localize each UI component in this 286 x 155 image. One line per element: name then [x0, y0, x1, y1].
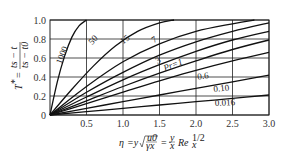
x-axis-eq1: =y — [127, 137, 139, 148]
x-tick-label: 2.5 — [226, 118, 239, 129]
x-axis-title: η =y u0 γx = y x Re x 1/2 — [119, 132, 205, 151]
x-tick-label: 0.5 — [80, 118, 93, 129]
x-tick-label: 2.0 — [190, 118, 203, 129]
x-axis-sqrt-den: γx — [146, 140, 155, 151]
x-tick-label: 1.5 — [153, 118, 166, 129]
y-axis-denominator: ts − t0 — [19, 42, 30, 68]
x-tick-label: 1.0 — [117, 118, 130, 129]
curve-label: 0.016 — [215, 97, 236, 108]
grid-lines — [50, 20, 269, 115]
x-axis-sup: 1/2 — [192, 132, 205, 143]
y-tick-label: 0.4 — [34, 72, 47, 83]
x-tick-label: 3.0 — [263, 118, 276, 129]
x-axis-eta: η — [119, 137, 124, 148]
y-axis-title: T * = ts − t ts − t0 — [8, 42, 30, 90]
y-axis-star: * — [9, 79, 20, 84]
y-tick-label: 1.0 — [34, 15, 47, 26]
curve-label: 0.6 — [197, 70, 210, 82]
y-axis-numerator: ts − t — [8, 47, 19, 68]
y-tick-label: 0.2 — [34, 91, 47, 102]
x-axis-frac-den: x — [169, 140, 175, 151]
y-tick-label: 0.6 — [34, 53, 47, 64]
curve-label: 50 — [86, 33, 100, 47]
y-tick-label: 0 — [41, 110, 46, 121]
chart-canvas: 1000501573Pr=10.60.100.016 0.51.01.52.02… — [0, 0, 286, 155]
curve-label: 15 — [118, 32, 132, 46]
y-axis-eq: = — [13, 72, 24, 78]
x-axis-eq2: = — [161, 137, 167, 148]
curve-label: 0.10 — [213, 82, 230, 94]
y-tick-label: 0.8 — [34, 34, 47, 45]
x-axis-re: Re — [177, 137, 189, 148]
curve-label: Pr=1 — [161, 56, 184, 73]
